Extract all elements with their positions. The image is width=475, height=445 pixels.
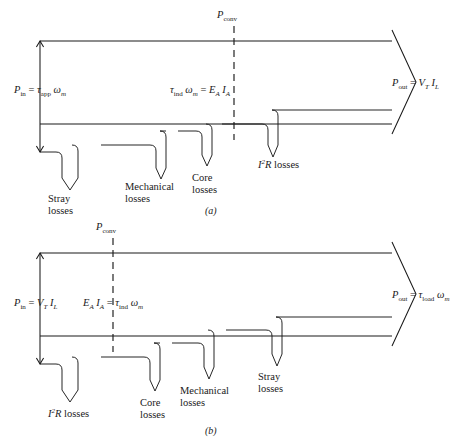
loss-branch-stray-a [40, 145, 78, 190]
svg-text:(b): (b) [205, 425, 217, 437]
label-loss-core-a: Core losses [192, 172, 217, 195]
power-flow-diagram-generator: Pin = τapp ωm Pconv τind ωm = EA IA Pout… [0, 0, 475, 222]
svg-text:Mechanical: Mechanical [125, 181, 174, 192]
power-flow-diagram-motor: Pin = VT IL Pconv EA IA = τind ωm Pout =… [0, 222, 475, 445]
svg-text:losses: losses [48, 205, 73, 216]
loss-branch-core-b [101, 343, 160, 391]
svg-text:Mechanical: Mechanical [180, 385, 229, 396]
svg-text:EA IA = τind ωm: EA IA = τind ωm [82, 297, 143, 311]
caption-a: (a) [205, 205, 217, 217]
svg-text:Stray: Stray [48, 193, 71, 204]
svg-text:losses: losses [192, 184, 217, 195]
label-p-out-a: Pout = VT IL [391, 77, 439, 91]
label-loss-stray-a: Stray losses [48, 193, 73, 216]
svg-text:Pin = VT IL: Pin = VT IL [13, 297, 58, 311]
label-loss-mechanical-b: Mechanical losses [180, 385, 229, 408]
loss-branch-mechanical-b [172, 330, 214, 379]
label-loss-i2r-a: I2R losses [257, 158, 299, 170]
power-band-a [40, 30, 416, 134]
svg-text:Pconv: Pconv [95, 222, 117, 235]
label-tau-ind-a: τind ωm = EA IA [170, 84, 231, 98]
svg-text:Pout = τload ωm: Pout = τload ωm [391, 289, 449, 303]
p-conv-subscript: conv [223, 15, 237, 23]
svg-text:losses: losses [125, 193, 150, 204]
label-p-out-b: Pout = τload ωm [391, 289, 449, 303]
loss-branch-i2r-a [222, 110, 392, 157]
figure-a-canvas: Pin = τapp ωm Pconv τind ωm = EA IA Pout… [0, 0, 475, 222]
svg-text:losses: losses [140, 409, 165, 420]
loss-branch-i2r-b [40, 357, 78, 402]
loss-branch-stray-b [226, 317, 392, 366]
label-p-in-b: Pin = VT IL [13, 297, 58, 311]
svg-text:losses: losses [258, 383, 283, 394]
label-p-conv-a: Pconv [216, 9, 238, 23]
label-ea-ia-b: EA IA = τind ωm [82, 297, 143, 311]
svg-text:I2R losses: I2R losses [47, 407, 89, 419]
figure-b-canvas: Pin = VT IL Pconv EA IA = τind ωm Pout =… [0, 222, 475, 445]
svg-text:Stray: Stray [258, 371, 281, 382]
svg-text:losses: losses [180, 397, 205, 408]
svg-text:Pconv: Pconv [216, 9, 238, 23]
caption-b: (b) [205, 425, 217, 437]
label-loss-mechanical-a: Mechanical losses [125, 181, 174, 204]
svg-text:I2R losses: I2R losses [257, 158, 299, 170]
svg-text:τind ωm = EA IA: τind ωm = EA IA [170, 84, 231, 98]
loss-branch-core-a [178, 124, 212, 166]
loss-branch-mechanical-a [107, 131, 166, 179]
loss-feeder-mechanical-a [101, 131, 166, 145]
label-loss-i2r-b: I2R losses [47, 407, 89, 419]
svg-text:(a): (a) [205, 205, 217, 217]
svg-text:Pout = VT IL: Pout = VT IL [391, 77, 439, 91]
svg-text:Core: Core [192, 172, 213, 183]
label-p-conv-b: Pconv [95, 222, 117, 235]
label-loss-stray-b: Stray losses [258, 371, 283, 394]
label-loss-core-b: Core losses [140, 397, 165, 420]
svg-text:Core: Core [140, 397, 161, 408]
